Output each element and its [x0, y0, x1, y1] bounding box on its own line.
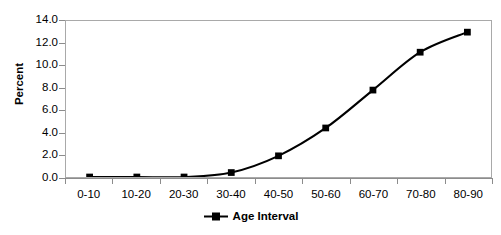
y-axis-tick-label: 8.0: [14, 82, 58, 93]
x-axis-tick: [160, 179, 161, 184]
data-point-marker: [322, 125, 329, 132]
data-point-marker: [181, 174, 188, 177]
x-axis-tick: [397, 179, 398, 184]
y-axis-tick-labels: 0.02.04.06.08.010.012.014.0: [8, 0, 58, 235]
y-axis-tick-label: 4.0: [14, 127, 58, 138]
data-point-marker: [275, 152, 282, 159]
x-axis-tick: [302, 179, 303, 184]
series-line-age-interval: [66, 21, 491, 177]
x-axis-tick: [112, 179, 113, 184]
x-axis-tick: [65, 179, 66, 184]
x-axis-tick-label: 80-90: [438, 188, 498, 200]
y-axis-tick-label: 6.0: [14, 104, 58, 115]
x-axis-tick: [207, 179, 208, 184]
x-axis-tick: [492, 179, 493, 184]
y-axis-tick-label: 2.0: [14, 149, 58, 160]
y-axis-tick-label: 12.0: [14, 37, 58, 48]
chart-figure: Percent 0.02.04.06.08.010.012.014.0 0-10…: [0, 0, 501, 235]
y-axis-tick-label: 10.0: [14, 59, 58, 70]
legend-label-age-interval: Age Interval: [233, 210, 299, 222]
y-axis-tick-label: 0.0: [14, 172, 58, 183]
plot-area: [65, 20, 492, 178]
legend-line-marker-icon: [203, 211, 229, 222]
data-point-marker: [464, 29, 471, 36]
chart-legend: Age Interval: [0, 210, 501, 222]
data-point-marker: [133, 174, 140, 177]
x-axis-tick: [445, 179, 446, 184]
x-axis-tick: [350, 179, 351, 184]
x-axis-line: [65, 178, 493, 179]
data-point-marker: [86, 174, 93, 177]
data-point-marker: [370, 87, 377, 94]
y-axis-tick-label: 14.0: [14, 14, 58, 25]
data-point-marker: [417, 49, 424, 56]
x-axis-tick: [255, 179, 256, 184]
data-point-marker: [228, 169, 235, 176]
